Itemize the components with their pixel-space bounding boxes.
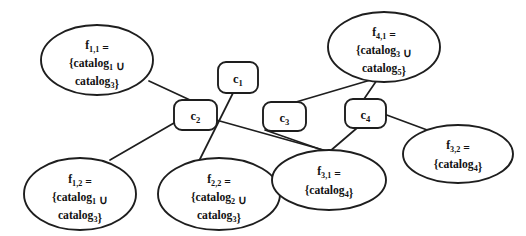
site-node[interactable]: c4 (345, 99, 386, 128)
fragment-ellipse (272, 150, 386, 210)
graph-edge (265, 130, 328, 152)
fragment-node[interactable]: f1,1 ={catalog1 ∪catalog3} (41, 25, 153, 95)
fragment-ellipse (403, 125, 513, 183)
graph-edge (110, 123, 174, 160)
graph-edge (364, 80, 377, 99)
diagram-canvas: f1,1 ={catalog1 ∪catalog3}f4,1 ={catalog… (0, 0, 526, 236)
graph-canvas: f1,1 ={catalog1 ∪catalog3}f4,1 ={catalog… (0, 0, 526, 236)
nodes-layer: f1,1 ={catalog1 ∪catalog3}f4,1 ={catalog… (24, 12, 513, 230)
site-node[interactable]: c2 (174, 100, 217, 130)
site-node[interactable]: c1 (218, 62, 258, 93)
site-node[interactable]: c3 (263, 102, 306, 131)
fragment-node[interactable]: f1,2 ={catalog1 ∪catalog3} (24, 158, 136, 230)
fragment-node[interactable]: f3,1 ={catalog4} (272, 150, 386, 210)
fragment-node[interactable]: f3,2 ={catalog4} (403, 125, 513, 183)
graph-edge (149, 81, 190, 100)
fragment-node[interactable]: f4,1 ={catalog3 ∪catalog5} (328, 12, 440, 82)
graph-edge (329, 128, 357, 152)
fragment-node[interactable]: f2,2 ={catalog2 ∪catalog3} (158, 158, 280, 230)
